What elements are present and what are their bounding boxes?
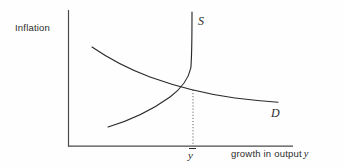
- x-axis-label-symbol: y: [302, 148, 309, 159]
- equilibrium-output-label: y: [188, 148, 196, 161]
- supply-demand-figure: Inflation S D y growth in outputy: [0, 0, 343, 168]
- supply-curve-label: S: [198, 15, 204, 27]
- x-axis-label-text: growth in output: [231, 148, 302, 159]
- y-axis-label: Inflation: [15, 23, 50, 33]
- demand-curve: [92, 47, 278, 102]
- figure-canvas: [0, 0, 343, 168]
- x-axis-label: growth in outputy: [231, 149, 309, 160]
- equilibrium-output-symbol: y: [188, 149, 193, 161]
- supply-curve: [108, 12, 192, 127]
- demand-curve-label: D: [271, 107, 280, 119]
